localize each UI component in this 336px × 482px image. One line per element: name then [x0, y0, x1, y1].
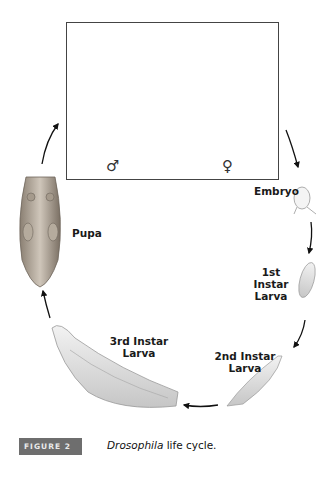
caption-species-name: Drosophila — [107, 439, 163, 451]
pupa-label: Pupa — [72, 227, 102, 239]
arrow-second-to-third-instar — [184, 405, 218, 407]
second-instar-label-line2: Larva — [213, 362, 277, 374]
pupa-illustration — [20, 177, 61, 287]
third-instar-label: 3rd Instar Larva — [107, 335, 171, 359]
arrow-embryo-to-first-instar — [309, 222, 312, 253]
first-instar-larva-illustration — [296, 261, 319, 299]
caption-text: life cycle. — [163, 439, 216, 451]
first-instar-label: 1st Instar Larva — [246, 266, 296, 302]
adult-flies-frame — [66, 22, 279, 180]
arrow-adult-to-embryo — [286, 130, 298, 167]
first-instar-label-line1: 1st Instar — [246, 266, 296, 290]
arrow-first-to-second-instar — [294, 320, 305, 347]
second-instar-label: 2nd Instar Larva — [213, 350, 277, 374]
figure-number-badge: FIGURE 2 — [19, 438, 82, 455]
first-instar-label-line2: Larva — [246, 290, 296, 302]
male-symbol: ♂ — [106, 157, 119, 175]
arrow-third-instar-to-pupa — [43, 291, 50, 318]
female-symbol: ♀ — [222, 157, 233, 175]
arrow-pupa-to-adult — [42, 124, 58, 164]
third-instar-label-line1: 3rd Instar — [107, 335, 171, 347]
embryo-label: Embryo — [254, 185, 299, 197]
third-instar-label-line2: Larva — [107, 347, 171, 359]
figure-caption: Drosophila life cycle. — [107, 439, 216, 451]
second-instar-label-line1: 2nd Instar — [213, 350, 277, 362]
